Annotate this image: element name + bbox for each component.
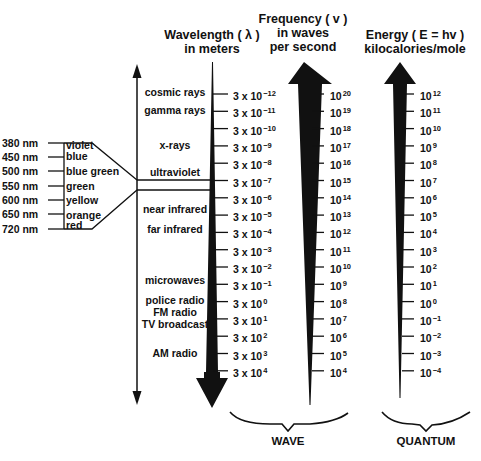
- wavelength-tick: 3 x 101: [233, 313, 267, 327]
- frequency-header: Frequency ( v ) in waves per second: [248, 12, 358, 54]
- frequency-tick: 1016: [330, 157, 351, 171]
- energy-tick: 109: [420, 140, 437, 154]
- energy-tick: 107: [420, 175, 437, 189]
- frequency-tick: 1019: [330, 105, 351, 119]
- energy-header-title: Energy ( E = hv ): [360, 28, 470, 42]
- frequency-tick: 1017: [330, 140, 351, 154]
- wavelength-tick: 3 x 104: [233, 365, 267, 379]
- energy-tick: 106: [420, 192, 437, 206]
- wavelength-tick: 3 x 100: [233, 296, 267, 310]
- band-gamma-rays: gamma rays: [138, 104, 212, 116]
- frequency-tick: 1012: [330, 226, 351, 240]
- color-blue: blue: [66, 151, 88, 161]
- nm-label: 650 nm: [2, 208, 38, 220]
- color-blue-green: blue green: [66, 166, 119, 176]
- band-cosmic-rays: cosmic rays: [138, 86, 212, 98]
- nm-label: 720 nm: [2, 223, 38, 235]
- nm-label: 500 nm: [2, 165, 38, 177]
- wavelength-tick: 3 x 10−4: [233, 226, 272, 240]
- wave-caption: WAVE: [258, 435, 318, 447]
- energy-tick: 10−1: [420, 313, 441, 327]
- wavelength-tick: 3 x 10−1: [233, 278, 272, 292]
- color-red: red: [66, 220, 82, 230]
- frequency-tick: 1013: [330, 209, 351, 223]
- energy-tick: 1011: [420, 105, 441, 119]
- wavelength-tick: 3 x 10−7: [233, 175, 272, 189]
- energy-tick: 101: [420, 278, 437, 292]
- wavelength-tick: 3 x 102: [233, 330, 267, 344]
- frequency-tick: 107: [330, 313, 347, 327]
- wavelength-tick: 3 x 10−11: [233, 105, 276, 119]
- quantum-caption: QUANTUM: [390, 435, 462, 447]
- energy-tick: 10−2: [420, 330, 441, 344]
- nm-label: 550 nm: [2, 180, 38, 192]
- color-green: green: [66, 181, 95, 191]
- color-yellow: yellow: [66, 195, 98, 205]
- frequency-tick: 108: [330, 296, 347, 310]
- energy-tick: 108: [420, 157, 437, 171]
- wave-brace: [230, 412, 348, 431]
- nm-label: 380 nm: [2, 137, 38, 149]
- nm-label: 450 nm: [2, 151, 38, 163]
- energy-header: Energy ( E = hv ) kilocalories/mole: [360, 28, 470, 56]
- band-ultraviolet: ultraviolet: [138, 166, 212, 178]
- band-tv-broadcast: TV broadcast: [138, 318, 212, 330]
- energy-tick: 103: [420, 244, 437, 258]
- frequency-tick: 104: [330, 365, 347, 379]
- frequency-header-title: Frequency ( v ): [248, 12, 358, 26]
- color-violet: violet: [66, 140, 93, 150]
- energy-header-unit: kilocalories/mole: [360, 42, 470, 56]
- energy-tick: 10−4: [420, 365, 441, 379]
- band-fm-radio: FM radio: [138, 306, 212, 318]
- frequency-tick: 109: [330, 278, 347, 292]
- frequency-tick: 1010: [330, 261, 351, 275]
- wavelength-tick: 3 x 10−12: [233, 88, 276, 102]
- band-far-infrared: far infrared: [138, 223, 212, 235]
- wavelength-tick: 3 x 10−9: [233, 140, 272, 154]
- quantum-brace: [382, 412, 470, 431]
- frequency-tick: 1014: [330, 192, 351, 206]
- wavelength-tick: 3 x 10−5: [233, 209, 272, 223]
- frequency-header-unit-2: per second: [248, 40, 358, 54]
- energy-arrow: [384, 62, 416, 398]
- wavelength-tick: 3 x 10−2: [233, 261, 272, 275]
- band-police-radio: police radio: [138, 294, 212, 306]
- energy-tick: 105: [420, 209, 437, 223]
- frequency-tick: 1011: [330, 244, 351, 258]
- frequency-header-unit-1: in waves: [248, 26, 358, 40]
- frequency-tick: 1018: [330, 123, 351, 137]
- frequency-tick: 1020: [330, 88, 351, 102]
- energy-tick: 100: [420, 296, 437, 310]
- wavelength-tick: 3 x 10−6: [233, 192, 272, 206]
- band-am-radio: AM radio: [138, 347, 212, 359]
- band-microwaves: microwaves: [138, 274, 212, 286]
- energy-tick: 1010: [420, 123, 441, 137]
- energy-tick: 104: [420, 226, 437, 240]
- wavelength-tick: 3 x 10−3: [233, 244, 272, 258]
- wavelength-tick: 3 x 103: [233, 348, 267, 362]
- wavelength-tick: 3 x 10−8: [233, 157, 272, 171]
- frequency-tick: 105: [330, 348, 347, 362]
- energy-tick: 102: [420, 261, 437, 275]
- energy-tick: 10−3: [420, 348, 441, 362]
- nm-label: 600 nm: [2, 194, 38, 206]
- frequency-tick: 106: [330, 330, 347, 344]
- wavelength-tick: 3 x 10−10: [233, 123, 276, 137]
- band-x-rays: x-rays: [138, 139, 212, 151]
- frequency-arrow: [288, 62, 332, 405]
- band-near-infrared: near infrared: [138, 203, 212, 215]
- frequency-tick: 1015: [330, 175, 351, 189]
- energy-tick: 1012: [420, 88, 441, 102]
